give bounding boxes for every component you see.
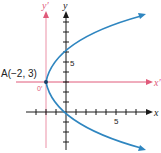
parabola-diagram: y′ x′ y 5 <box>0 0 161 153</box>
x-tick-label: 5 <box>114 117 119 126</box>
vertex-point <box>44 80 48 84</box>
arrow-right-icon <box>146 109 153 115</box>
origin-prime-label: 0′ <box>37 85 43 92</box>
x-axis <box>26 109 153 115</box>
arrow-icon <box>138 13 146 19</box>
y-axis <box>63 11 69 150</box>
y-tick-label: 5 <box>70 59 75 68</box>
y-label: y <box>62 0 68 11</box>
arrow-icon <box>138 145 146 151</box>
point-a-label: A(−2, 3) <box>1 68 37 79</box>
arrow-right-icon <box>146 79 153 85</box>
arrow-up-icon <box>63 11 69 18</box>
x-prime-label: x′ <box>153 77 161 88</box>
arrow-up-icon <box>43 11 49 18</box>
y-prime-label: y′ <box>41 0 49 11</box>
x-label: x <box>153 107 159 118</box>
